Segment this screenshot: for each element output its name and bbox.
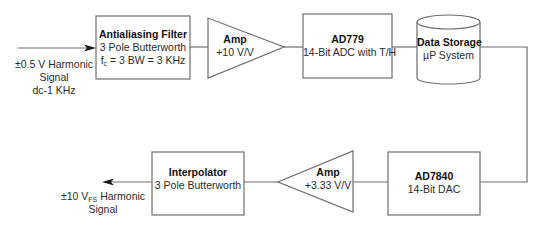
output-signal-label: ±10 VFS Harmonic Signal — [60, 190, 146, 216]
interpolator-description: 3 Pole Butterworth — [152, 179, 244, 192]
amp-output-gain: +3.33 V/V — [300, 179, 356, 192]
output-harmonic: Harmonic — [97, 190, 145, 202]
amp-input-label: Amp +10 V/V — [210, 33, 260, 59]
interpolator-label: Interpolator 3 Pole Butterworth — [152, 166, 244, 192]
data-storage-description: µP System — [417, 49, 480, 62]
amp-output-label: Amp +3.33 V/V — [300, 166, 356, 192]
amp-output-title: Amp — [300, 166, 356, 179]
data-storage-label: Data Storage µP System — [417, 36, 480, 62]
ad779-title: AD779 — [303, 33, 392, 46]
ad7840-label: AD7840 14-Bit DAC — [388, 170, 480, 196]
wire-storage-dac — [480, 47, 527, 182]
antialiasing-filter-title: Antialiasing Filter — [96, 28, 190, 41]
fc-value: = 3 BW = 3 KHz — [107, 54, 185, 66]
output-signal-line-1: ±10 VFS Harmonic — [60, 190, 146, 203]
data-storage-title: Data Storage — [417, 36, 480, 49]
input-signal-label: ±0.5 V Harmonic Signal dc-1 KHz — [12, 58, 96, 97]
input-signal-line-1: ±0.5 V Harmonic — [12, 58, 96, 71]
antialiasing-filter-line-2: fc = 3 BW = 3 KHz — [96, 54, 190, 67]
ad7840-title: AD7840 — [388, 170, 480, 183]
input-signal-line-2: Signal — [12, 71, 96, 84]
interpolator-title: Interpolator — [152, 166, 244, 179]
ad779-label: AD779 14-Bit ADC with T/H — [303, 33, 392, 59]
antialiasing-filter-line-1: 3 Pole Butterworth — [96, 41, 190, 54]
ad7840-description: 14-Bit DAC — [388, 183, 480, 196]
output-signal-line-2: Signal — [60, 203, 146, 216]
ad779-description: 14-Bit ADC with T/H — [303, 46, 392, 59]
amp-input-title: Amp — [210, 33, 260, 46]
output-voltage: ±10 V — [61, 190, 88, 202]
amp-input-gain: +10 V/V — [210, 46, 260, 59]
data-storage-cylinder-top — [417, 15, 480, 29]
input-signal-line-3: dc-1 KHz — [12, 84, 96, 97]
antialiasing-filter-label: Antialiasing Filter 3 Pole Butterworth f… — [96, 28, 190, 67]
output-fs-subscript: FS — [88, 196, 97, 203]
